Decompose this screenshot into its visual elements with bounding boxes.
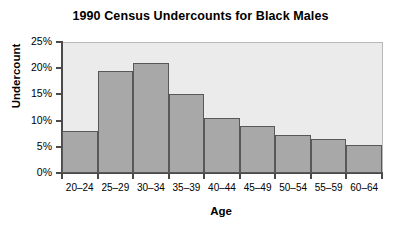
y-tick-label: 25% bbox=[10, 35, 52, 47]
y-tick-label: 5% bbox=[10, 140, 52, 152]
bar bbox=[98, 71, 134, 173]
x-tick-mark bbox=[61, 173, 63, 179]
x-tick-mark bbox=[274, 173, 276, 179]
bar bbox=[275, 135, 311, 173]
y-tick-label: 20% bbox=[10, 61, 52, 73]
chart-figure: 1990 Census Undercounts for Black Males … bbox=[0, 0, 401, 232]
x-tick-mark bbox=[132, 173, 134, 179]
x-tick-mark bbox=[239, 173, 241, 179]
y-tick-label: 10% bbox=[10, 114, 52, 126]
chart-title: 1990 Census Undercounts for Black Males bbox=[0, 9, 401, 23]
x-tick-mark bbox=[381, 173, 383, 179]
bar bbox=[204, 118, 240, 173]
x-tick-mark bbox=[310, 173, 312, 179]
y-tick-label: 0% bbox=[10, 166, 52, 178]
bar bbox=[346, 145, 382, 173]
x-axis-title: Age bbox=[60, 205, 382, 217]
bar-series bbox=[62, 42, 382, 173]
x-tick-mark bbox=[203, 173, 205, 179]
y-tick-label: 15% bbox=[10, 87, 52, 99]
x-tick-mark bbox=[168, 173, 170, 179]
bar bbox=[62, 131, 98, 173]
x-tick-mark bbox=[97, 173, 99, 179]
bar bbox=[240, 126, 276, 173]
bar bbox=[311, 139, 347, 173]
bar bbox=[169, 94, 205, 173]
x-tick-label: 60–64 bbox=[341, 182, 387, 193]
x-tick-mark bbox=[345, 173, 347, 179]
bar bbox=[133, 63, 169, 173]
